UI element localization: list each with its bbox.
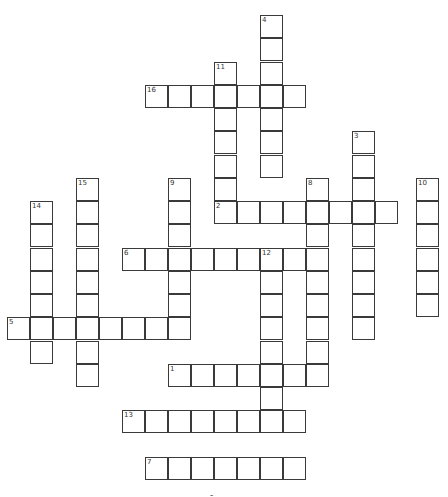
crossword-cell[interactable] — [191, 364, 214, 387]
crossword-cell[interactable] — [30, 294, 53, 317]
crossword-cell[interactable] — [214, 364, 237, 387]
crossword-cell[interactable] — [145, 410, 168, 433]
crossword-cell[interactable] — [168, 248, 191, 271]
crossword-cell[interactable] — [352, 224, 375, 247]
crossword-cell[interactable] — [214, 131, 237, 154]
crossword-cell[interactable] — [260, 108, 283, 131]
crossword-cell[interactable] — [352, 248, 375, 271]
crossword-cell[interactable] — [168, 201, 191, 224]
crossword-cell[interactable]: 5 — [7, 317, 30, 340]
crossword-cell[interactable] — [76, 248, 99, 271]
crossword-cell[interactable] — [260, 317, 283, 340]
crossword-cell[interactable] — [168, 457, 191, 480]
crossword-cell[interactable] — [352, 317, 375, 340]
crossword-cell[interactable] — [375, 201, 398, 224]
crossword-cell[interactable] — [145, 317, 168, 340]
crossword-cell[interactable]: 4 — [260, 15, 283, 38]
crossword-cell[interactable] — [168, 271, 191, 294]
crossword-cell[interactable] — [53, 317, 76, 340]
crossword-cell[interactable] — [99, 317, 122, 340]
crossword-cell[interactable] — [352, 271, 375, 294]
crossword-cell[interactable] — [260, 271, 283, 294]
crossword-cell[interactable]: 9 — [168, 178, 191, 201]
crossword-cell[interactable]: 1 — [168, 364, 191, 387]
crossword-cell[interactable] — [352, 201, 375, 224]
crossword-cell[interactable]: 12 — [260, 248, 283, 271]
crossword-cell[interactable] — [168, 410, 191, 433]
crossword-cell[interactable] — [30, 341, 53, 364]
crossword-cell[interactable] — [416, 271, 439, 294]
crossword-cell[interactable] — [306, 341, 329, 364]
crossword-cell[interactable] — [306, 201, 329, 224]
crossword-cell[interactable] — [306, 317, 329, 340]
crossword-cell[interactable]: 15 — [76, 178, 99, 201]
crossword-cell[interactable] — [237, 410, 260, 433]
crossword-cell[interactable]: 6 — [122, 248, 145, 271]
crossword-cell[interactable] — [214, 108, 237, 131]
crossword-cell[interactable] — [76, 364, 99, 387]
crossword-cell[interactable] — [260, 341, 283, 364]
crossword-cell[interactable] — [352, 294, 375, 317]
crossword-cell[interactable] — [237, 248, 260, 271]
crossword-cell[interactable] — [76, 317, 99, 340]
crossword-cell[interactable] — [260, 457, 283, 480]
crossword-cell[interactable] — [283, 364, 306, 387]
crossword-cell[interactable] — [260, 387, 283, 410]
crossword-cell[interactable] — [214, 155, 237, 178]
crossword-cell[interactable] — [76, 341, 99, 364]
crossword-cell[interactable] — [416, 224, 439, 247]
crossword-cell[interactable] — [306, 248, 329, 271]
crossword-cell[interactable] — [76, 294, 99, 317]
crossword-cell[interactable] — [283, 85, 306, 108]
crossword-cell[interactable]: 16 — [145, 85, 168, 108]
crossword-cell[interactable] — [168, 317, 191, 340]
crossword-cell[interactable]: 13 — [122, 410, 145, 433]
crossword-cell[interactable] — [260, 410, 283, 433]
crossword-cell[interactable]: 3 — [352, 131, 375, 154]
crossword-cell[interactable] — [237, 457, 260, 480]
crossword-cell[interactable] — [260, 364, 283, 387]
crossword-cell[interactable] — [306, 364, 329, 387]
crossword-cell[interactable] — [145, 248, 168, 271]
crossword-cell[interactable] — [191, 248, 214, 271]
crossword-cell[interactable] — [168, 294, 191, 317]
crossword-cell[interactable]: 10 — [416, 178, 439, 201]
crossword-cell[interactable] — [283, 201, 306, 224]
crossword-cell[interactable] — [30, 271, 53, 294]
crossword-cell[interactable] — [416, 201, 439, 224]
crossword-cell[interactable] — [306, 271, 329, 294]
crossword-cell[interactable] — [260, 85, 283, 108]
crossword-cell[interactable] — [214, 85, 237, 108]
crossword-cell[interactable] — [214, 410, 237, 433]
crossword-cell[interactable] — [214, 248, 237, 271]
crossword-cell[interactable] — [237, 364, 260, 387]
crossword-cell[interactable] — [416, 294, 439, 317]
crossword-cell[interactable] — [76, 271, 99, 294]
crossword-cell[interactable] — [76, 224, 99, 247]
crossword-cell[interactable] — [416, 248, 439, 271]
crossword-cell[interactable] — [352, 178, 375, 201]
crossword-cell[interactable] — [260, 38, 283, 61]
crossword-cell[interactable] — [122, 317, 145, 340]
crossword-cell[interactable] — [237, 201, 260, 224]
crossword-cell[interactable] — [76, 201, 99, 224]
crossword-cell[interactable]: 8 — [306, 178, 329, 201]
crossword-cell[interactable] — [260, 155, 283, 178]
crossword-cell[interactable] — [30, 248, 53, 271]
crossword-cell[interactable] — [283, 457, 306, 480]
crossword-cell[interactable] — [260, 62, 283, 85]
crossword-cell[interactable] — [283, 410, 306, 433]
crossword-cell[interactable] — [306, 294, 329, 317]
crossword-cell[interactable] — [260, 201, 283, 224]
crossword-cell[interactable] — [191, 85, 214, 108]
crossword-cell[interactable] — [168, 85, 191, 108]
crossword-cell[interactable]: 11 — [214, 62, 237, 85]
crossword-cell[interactable] — [352, 155, 375, 178]
crossword-cell[interactable] — [306, 224, 329, 247]
crossword-cell[interactable] — [191, 457, 214, 480]
crossword-cell[interactable] — [237, 85, 260, 108]
crossword-cell[interactable] — [30, 224, 53, 247]
crossword-cell[interactable] — [30, 317, 53, 340]
crossword-cell[interactable] — [168, 224, 191, 247]
crossword-cell[interactable]: 2 — [214, 201, 237, 224]
